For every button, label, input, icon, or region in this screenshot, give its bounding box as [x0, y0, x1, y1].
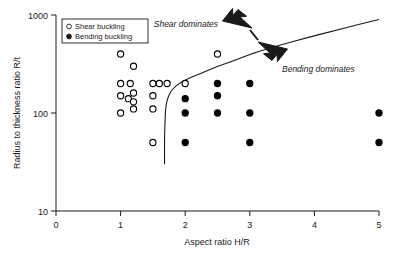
x-ticklabel-5: 5	[376, 220, 381, 230]
shear-buckling-marker	[182, 80, 188, 86]
x-ticklabel-0: 0	[53, 220, 58, 230]
legend-open-circle-icon	[67, 24, 72, 29]
shear-buckling-marker	[118, 110, 124, 116]
figure-container: 1000 100 10 0 1 2 3 4 5 Aspect ratio H/R…	[0, 0, 396, 253]
x-ticklabel-1: 1	[118, 220, 123, 230]
shear-buckling-marker	[150, 80, 156, 86]
bending-buckling-marker	[214, 80, 220, 86]
shear-buckling-marker	[214, 51, 220, 57]
bending-buckling-marker	[214, 93, 220, 99]
bending-buckling-marker	[247, 110, 253, 116]
y-ticklabel-100: 100	[33, 109, 48, 119]
shear-buckling-marker	[156, 80, 162, 86]
x-axis-ticks	[56, 211, 379, 216]
shear-buckling-marker	[150, 93, 156, 99]
bending-buckling-marker	[182, 96, 188, 102]
shear-buckling-marker	[130, 106, 136, 112]
x-ticklabel-2: 2	[183, 220, 188, 230]
legend-label-bending-buckling: Bending buckling	[75, 32, 132, 41]
shear-buckling-marker	[130, 99, 136, 105]
legend-label-shear-buckling: Shear buckling	[75, 22, 125, 31]
chart-canvas: 1000 100 10 0 1 2 3 4 5 Aspect ratio H/R…	[0, 0, 396, 253]
legend: Shear buckling Bending buckling	[62, 19, 148, 43]
y-ticklabel-10: 10	[38, 207, 48, 217]
bending-buckling-marker	[376, 139, 382, 145]
shear-buckling-marker	[150, 139, 156, 145]
shear-buckling-marker	[130, 63, 136, 69]
annotation-bending-dominates: Bending dominates	[282, 64, 356, 74]
annotation-shear-dominates: Shear dominates	[154, 19, 219, 29]
bending-buckling-marker	[182, 110, 188, 116]
bending-buckling-marker	[247, 139, 253, 145]
x-axis-label: Aspect ratio H/R	[184, 237, 250, 247]
y-ticklabel-1000: 1000	[28, 11, 48, 21]
shear-buckling-marker	[150, 106, 156, 112]
legend-filled-circle-icon	[67, 34, 72, 39]
shear-buckling-marker	[130, 90, 136, 96]
shear-buckling-marker	[118, 93, 124, 99]
bending-buckling-marker	[214, 110, 220, 116]
y-axis-label: Radius to thickness ratio R/t	[12, 56, 22, 169]
y-axis-ticks	[51, 15, 56, 211]
shear-buckling-marker	[118, 51, 124, 57]
shear-buckling-marker	[127, 80, 133, 86]
shear-buckling-marker	[118, 80, 124, 86]
bending-buckling-marker	[376, 110, 382, 116]
bending-buckling-marker	[247, 80, 253, 86]
x-ticklabel-3: 3	[247, 220, 252, 230]
bending-buckling-marker	[182, 139, 188, 145]
x-ticklabel-4: 4	[312, 220, 317, 230]
shear-buckling-marker	[164, 80, 170, 86]
